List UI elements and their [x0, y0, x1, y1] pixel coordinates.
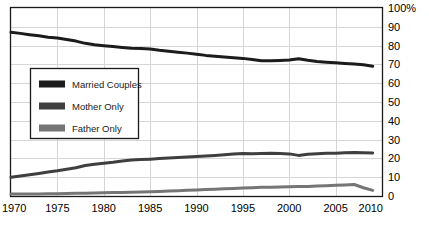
x-tick-label: 1995 [231, 202, 255, 214]
y-tick-label: 100% [388, 2, 416, 14]
x-tick-label: 1975 [45, 202, 69, 214]
line-chart: 0102030405060708090100% 1970197519801985… [0, 0, 429, 231]
y-tick-label: 40 [388, 115, 400, 127]
legend-label: Mother Only [72, 101, 124, 112]
legend-swatch [39, 125, 65, 132]
legend-label: Married Couples [72, 79, 142, 90]
y-tick-label: 60 [388, 77, 400, 89]
chart-container: 0102030405060708090100% 1970197519801985… [0, 0, 429, 231]
y-tick-label: 0 [388, 190, 394, 202]
y-tick-label: 20 [388, 152, 400, 164]
y-tick-label: 10 [388, 171, 400, 183]
x-tick-label: 2010 [359, 202, 383, 214]
x-tick-label: 1970 [2, 202, 26, 214]
y-tick-label: 90 [388, 21, 400, 33]
y-tick-label: 80 [388, 40, 400, 52]
x-tick-label: 2005 [323, 202, 347, 214]
legend-swatch [39, 103, 65, 110]
x-tick-label: 1980 [92, 202, 116, 214]
y-tick-label: 70 [388, 58, 400, 70]
x-axis-tick-labels: 197019751980198519901995200020052010 [2, 202, 383, 214]
chart-legend: Married CouplesMother OnlyFather Only [31, 69, 142, 139]
x-tick-label: 1990 [184, 202, 208, 214]
x-tick-label: 2000 [277, 202, 301, 214]
y-tick-label: 30 [388, 134, 400, 146]
x-tick-label: 1985 [138, 202, 162, 214]
legend-swatch [39, 81, 65, 88]
y-tick-label: 50 [388, 96, 400, 108]
legend-label: Father Only [72, 123, 122, 134]
